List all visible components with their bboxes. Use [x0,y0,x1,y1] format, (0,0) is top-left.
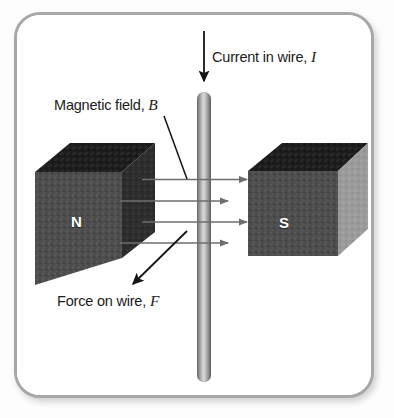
force-label-text: Force on wire, [57,293,146,309]
magnet-north-pole-label: N [71,214,82,229]
magnet-north: N [30,140,160,290]
wire [197,92,211,382]
magnetic-field-label-text: Magnetic field, [54,97,145,113]
current-label-symbol: I [311,48,316,65]
force-label-symbol: F [150,292,159,309]
magnet-north-shape [30,140,160,290]
current-label-text: Current in wire, [212,49,307,65]
current-label: Current in wire, I [212,49,316,65]
magnetic-field-label: Magnetic field, B [54,97,158,113]
magnetic-field-label-symbol: B [148,96,157,113]
magnet-south-pole-label: S [279,215,289,230]
magnet-south-shape [246,141,372,281]
diagram-canvas: N [0,0,394,418]
magnet-south-front-face [248,171,338,256]
magnet-south: S [246,141,372,281]
force-label: Force on wire, F [57,293,159,309]
